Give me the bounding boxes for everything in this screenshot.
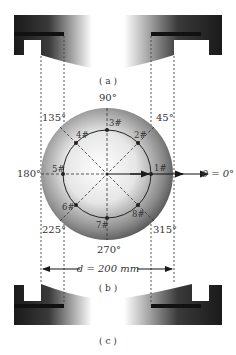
point-8 [136, 203, 140, 207]
diameter-dimension: d = 200 mm [43, 263, 172, 274]
caption-b: ( b ) [99, 283, 118, 293]
angle-225: 225° [42, 224, 66, 235]
diameter-label: d = 200 mm [77, 263, 139, 274]
angle-315: 315° [153, 224, 177, 235]
top-section [14, 15, 222, 68]
angle-135: 135° [42, 112, 66, 123]
point-3 [105, 128, 109, 132]
caption-a: ( a ) [99, 76, 117, 86]
angle-0: θ = 0° [202, 168, 234, 179]
point-2 [136, 141, 140, 145]
angle-90: 90° [99, 92, 117, 103]
point-label-6: 6# [62, 202, 75, 212]
point-1 [149, 172, 153, 176]
bottom-section [14, 284, 222, 325]
point-label-1: 1# [154, 163, 167, 173]
point-label-2: 2# [134, 130, 147, 140]
point-label-7: 7# [96, 220, 109, 230]
point-label-4: 4# [76, 130, 89, 140]
point-label-3: 3# [109, 118, 122, 128]
sphere-view: 1# 2# 3# 4# 5# 6# 7# 8# 90° 135° 45° 180… [17, 92, 234, 255]
point-label-8: 8# [132, 209, 145, 219]
point-4 [74, 141, 78, 145]
angle-45: 45° [156, 112, 174, 123]
point-6 [74, 203, 78, 207]
angle-180: 180° [17, 168, 41, 179]
point-label-5: 5# [52, 164, 65, 174]
caption-c: ( c ) [99, 336, 117, 346]
measurement-diagram: 1# 2# 3# 4# 5# 6# 7# 8# 90° 135° 45° 180… [0, 0, 236, 355]
angle-270: 270° [97, 244, 121, 255]
